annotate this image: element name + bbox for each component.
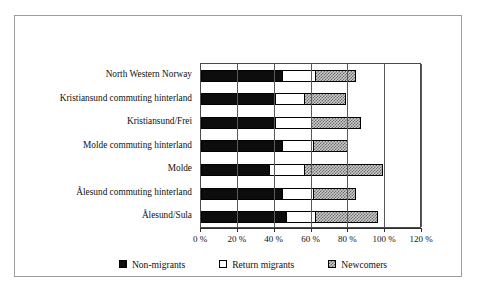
bar-segment-ret[interactable] <box>282 188 313 200</box>
stacked-bar[interactable] <box>201 70 356 82</box>
figure-page: North Western NorwayKristiansund commuti… <box>0 0 480 296</box>
figure-frame: North Western NorwayKristiansund commuti… <box>14 15 462 277</box>
category-label: Molde <box>168 157 192 181</box>
legend-swatch-icon <box>119 260 127 268</box>
caption-fragment <box>0 0 480 12</box>
x-tick-60 <box>311 228 312 232</box>
bar-segment-nonmig[interactable] <box>201 70 282 82</box>
bar-segment-nonmig[interactable] <box>201 140 282 152</box>
category-label: Ålesund commuting hinterland <box>76 181 192 205</box>
legend-label: Newcomers <box>341 259 387 270</box>
plot-area <box>200 63 421 228</box>
stacked-bar[interactable] <box>201 140 348 152</box>
category-label: Kristiansund commuting hinterland <box>60 87 192 111</box>
chart-legend: Non-migrantsReturn migrantsNewcomers <box>29 256 477 272</box>
stacked-bar[interactable] <box>201 188 356 200</box>
legend-label: Return migrants <box>232 259 294 270</box>
x-tick-label: 40 % <box>264 234 283 244</box>
bar-segment-newc[interactable] <box>313 188 355 200</box>
x-axis-tick-labels: 0 %20 %40 %60 %80 %100 %120 % <box>155 234 475 248</box>
legend-swatch-icon <box>328 260 336 268</box>
x-tick-120 <box>421 228 422 232</box>
stacked-bar[interactable] <box>201 211 378 223</box>
category-label: North Western Norway <box>106 63 192 87</box>
x-tick-40 <box>274 228 275 232</box>
legend-item-nonmig[interactable]: Non-migrants <box>119 259 185 270</box>
gridline-120 <box>421 64 422 227</box>
stacked-bar[interactable] <box>201 164 383 176</box>
legend-label: Non-migrants <box>132 259 185 270</box>
category-axis-labels: North Western NorwayKristiansund commuti… <box>29 63 196 228</box>
stacked-bar[interactable] <box>201 117 361 129</box>
legend-item-newc[interactable]: Newcomers <box>328 259 387 270</box>
x-tick-label: 60 % <box>301 234 320 244</box>
x-tick-label: 80 % <box>338 234 357 244</box>
bar-segment-nonmig[interactable] <box>201 93 275 105</box>
bar-segment-newc[interactable] <box>313 140 348 152</box>
category-label: Ålesund/Sula <box>142 204 192 228</box>
gridline-20 <box>237 64 238 227</box>
gridline-60 <box>311 64 312 227</box>
gridline-40 <box>274 64 275 227</box>
legend-swatch-icon <box>219 260 227 268</box>
bar-segment-nonmig[interactable] <box>201 188 282 200</box>
x-tick-label: 100 % <box>373 234 396 244</box>
x-tick-label: 120 % <box>409 234 432 244</box>
x-tick-0 <box>200 228 201 232</box>
bar-segment-newc[interactable] <box>304 164 383 176</box>
gridline-100 <box>384 64 385 227</box>
bar-segment-newc[interactable] <box>311 117 361 129</box>
bar-segment-nonmig[interactable] <box>201 117 275 129</box>
x-tick-80 <box>347 228 348 232</box>
legend-item-ret[interactable]: Return migrants <box>219 259 294 270</box>
bar-segment-nonmig[interactable] <box>201 164 269 176</box>
x-tick-100 <box>384 228 385 232</box>
x-tick-label: 0 % <box>193 234 207 244</box>
bar-segment-newc[interactable] <box>315 70 356 82</box>
bar-segment-ret[interactable] <box>275 93 304 105</box>
x-tick-20 <box>237 228 238 232</box>
gridline-80 <box>347 64 348 227</box>
bar-segment-ret[interactable] <box>275 117 312 129</box>
category-label: Molde commuting hinterland <box>83 134 192 158</box>
x-tick-label: 20 % <box>227 234 246 244</box>
category-label: Kristiansund/Frei <box>127 110 192 134</box>
bar-segment-ret[interactable] <box>282 140 313 152</box>
